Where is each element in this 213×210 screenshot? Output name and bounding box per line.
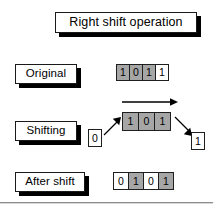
carry-in-bit: 0 bbox=[88, 129, 102, 147]
original-label: Original bbox=[22, 68, 70, 80]
bit-cell: 0 bbox=[143, 172, 159, 190]
page-title: Right shift operation bbox=[65, 16, 186, 29]
bit-cell: 1 bbox=[155, 64, 169, 81]
bit-cell: 1 bbox=[122, 112, 139, 131]
shifting-label-plate: Shifting bbox=[15, 121, 77, 141]
right-arrow-icon bbox=[122, 97, 178, 107]
shifting-label: Shifting bbox=[22, 125, 69, 137]
bit-cell: 0 bbox=[138, 112, 155, 131]
right-shift-operation-figure: Right shift operation Original 1 0 1 1 S… bbox=[0, 0, 213, 210]
original-bit-row: 1 0 1 1 bbox=[116, 64, 169, 81]
after-shift-bit-row: 0 1 0 1 bbox=[113, 172, 174, 190]
bit-cell: 0 bbox=[113, 172, 129, 190]
carry-in-arrow-icon bbox=[104, 116, 122, 136]
title-plate: Right shift operation bbox=[55, 12, 197, 33]
carry-out-bit: 1 bbox=[191, 132, 205, 150]
bit-cell: 1 bbox=[158, 172, 174, 190]
shifting-bit-row: 1 0 1 bbox=[122, 112, 171, 131]
bit-cell: 1 bbox=[154, 112, 171, 131]
original-label-plate: Original bbox=[15, 64, 77, 84]
after-shift-label: After shift bbox=[21, 176, 79, 188]
bit-cell: 1 bbox=[116, 64, 130, 81]
bit-cell: 0 bbox=[129, 64, 143, 81]
bottom-divider bbox=[0, 202, 213, 204]
after-shift-label-plate: After shift bbox=[15, 172, 85, 192]
bit-cell: 1 bbox=[142, 64, 156, 81]
bit-cell: 1 bbox=[128, 172, 144, 190]
